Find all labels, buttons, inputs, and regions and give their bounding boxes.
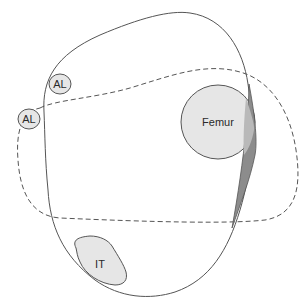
anatomy-diagram: Femur AL AL IT [0,0,303,301]
it-label: IT [95,258,105,270]
al-lower-label: AL [22,113,35,125]
al-upper-label: AL [53,78,66,90]
femur-label: Femur [202,116,234,128]
